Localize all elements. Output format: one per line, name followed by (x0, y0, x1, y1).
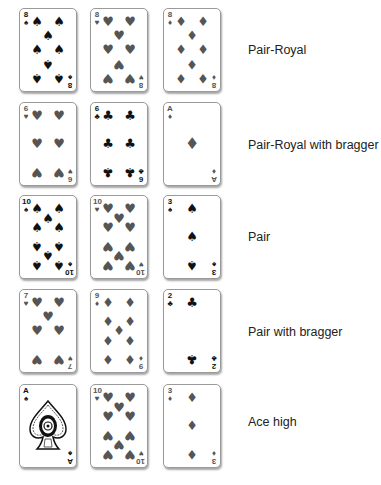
rank-text: 7 (66, 362, 74, 370)
club-icon: ♣ (93, 113, 101, 121)
diamond-icon: ♦ (123, 296, 137, 310)
heart-icon: ♥ (112, 29, 126, 43)
card-9-diamonds: 9♦9♦♦♦♦♦♦♦♦♦♦ (90, 289, 148, 373)
diamond-icon: ♦ (196, 43, 210, 57)
rank-text: 6 (66, 175, 74, 183)
heart-icon: ♥ (123, 447, 137, 461)
spade-icon: ♠ (41, 57, 55, 71)
hand-label: Pair-Royal (248, 43, 306, 57)
corner-index: 10♥ (93, 198, 101, 214)
ornate-spade-icon (28, 399, 68, 451)
heart-icon: ♥ (137, 73, 145, 81)
corner-index: 10♥ (137, 260, 145, 276)
diamond-icon: ♦ (185, 29, 199, 43)
card-3-spades: 3♠3♠♠♠♠ (163, 195, 221, 279)
heart-icon: ♥ (93, 395, 101, 403)
card-7-hearts: 7♥7♥♥♥♥♥♥♥♥ (19, 289, 77, 373)
club-icon: ♣ (101, 109, 115, 123)
rank-text: 3 (210, 268, 218, 276)
diamond-icon: ♦ (174, 15, 188, 29)
diamond-icon: ♦ (166, 395, 174, 403)
corner-index: 10♥ (137, 449, 145, 465)
heart-icon: ♥ (112, 57, 126, 71)
heart-icon: ♥ (101, 258, 115, 272)
heart-icon: ♥ (123, 15, 137, 29)
club-icon: ♣ (123, 137, 137, 151)
spade-icon: ♠ (30, 43, 44, 57)
corner-index: 6♣ (137, 167, 145, 183)
heart-icon: ♥ (101, 221, 115, 235)
heart-icon: ♥ (123, 410, 137, 424)
corner-index: 10♥ (93, 387, 101, 403)
hand-row-pair-royal-with-bragger: 6♥6♥♥♥♥♥♥♥ 6♣6♣♣♣♣♣♣♣ A♦A♦♦ Pair-Royal w… (0, 102, 381, 197)
rank-text: 10 (66, 268, 74, 276)
rank-text: A (210, 175, 218, 183)
diamond-icon: ♦ (185, 137, 199, 151)
spade-icon: ♠ (52, 43, 66, 57)
card-3-diamonds: 3♦3♦♦♦♦ (163, 384, 221, 468)
club-icon: ♣ (123, 165, 137, 179)
heart-icon: ♥ (123, 258, 137, 272)
rank-text: A (66, 457, 74, 465)
corner-index: 8♠ (66, 73, 74, 89)
club-icon: ♣ (101, 165, 115, 179)
spade-icon: ♠ (30, 258, 44, 272)
corner-index: 6♥ (66, 167, 74, 183)
corner-index: 9♦ (93, 292, 101, 308)
card-10-hearts: 10♥10♥♥♥♥♥♥♥♥♥♥♥ (90, 384, 148, 468)
diamond-icon: ♦ (185, 419, 199, 433)
corner-index: 8♥ (93, 11, 101, 27)
rank-text: 8 (66, 81, 74, 89)
diamond-icon: ♦ (174, 71, 188, 85)
corner-index: 6♥ (22, 105, 30, 121)
heart-icon: ♥ (123, 221, 137, 235)
diamond-icon: ♦ (101, 352, 115, 366)
heart-icon: ♥ (93, 206, 101, 214)
heart-icon: ♥ (30, 324, 44, 338)
spade-icon: ♠ (185, 258, 199, 272)
corner-index: 10♠ (22, 198, 30, 214)
spade-icon: ♠ (22, 19, 30, 27)
corner-index: 3♠ (166, 198, 174, 214)
card-10-hearts: 10♥10♥♥♥♥♥♥♥♥♥♥♥ (90, 195, 148, 279)
heart-icon: ♥ (66, 354, 74, 362)
rank-text: 6 (137, 175, 145, 183)
corner-index: A♦ (210, 167, 218, 183)
heart-icon: ♥ (66, 167, 74, 175)
club-icon: ♣ (123, 109, 137, 123)
diamond-icon: ♦ (166, 113, 174, 121)
spade-icon: ♠ (52, 15, 66, 29)
corner-index: A♠ (66, 449, 74, 465)
rank-text: 8 (210, 81, 218, 89)
spade-icon: ♠ (66, 260, 74, 268)
corner-index: 8♥ (137, 73, 145, 89)
club-icon: ♣ (185, 296, 199, 310)
spade-icon: ♠ (210, 260, 218, 268)
heart-icon: ♥ (52, 109, 66, 123)
card-a-diamonds: A♦A♦♦ (163, 102, 221, 186)
heart-icon: ♥ (101, 410, 115, 424)
corner-index: 3♦ (210, 449, 218, 465)
card-8-spades: 8♠8♠♠♠♠♠♠♠♠♠ (19, 8, 77, 92)
heart-icon: ♥ (52, 352, 66, 366)
heart-icon: ♥ (30, 352, 44, 366)
corner-index: 6♣ (93, 105, 101, 121)
diamond-icon: ♦ (93, 300, 101, 308)
heart-icon: ♥ (101, 71, 115, 85)
heart-icon: ♥ (30, 137, 44, 151)
spade-icon: ♠ (52, 258, 66, 272)
spade-icon: ♠ (52, 71, 66, 85)
diamond-icon: ♦ (210, 449, 218, 457)
heart-icon: ♥ (52, 296, 66, 310)
heart-icon: ♥ (137, 449, 145, 457)
rank-text: 2 (210, 362, 218, 370)
diamond-icon: ♦ (166, 19, 174, 27)
spade-icon: ♠ (166, 206, 174, 214)
diamond-icon: ♦ (185, 57, 199, 71)
spade-icon: ♠ (41, 29, 55, 43)
card-6-clubs: 6♣6♣♣♣♣♣♣♣ (90, 102, 148, 186)
diamond-icon: ♦ (185, 447, 199, 461)
heart-icon: ♥ (101, 43, 115, 57)
diamond-icon: ♦ (123, 333, 137, 347)
rank-text: 9 (137, 362, 145, 370)
